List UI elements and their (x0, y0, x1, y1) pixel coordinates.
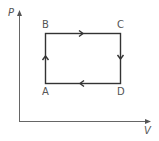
p-axis-label: P (8, 8, 14, 18)
axes (17, 10, 151, 124)
p-axis-arrowhead-icon (17, 10, 22, 16)
point-label-d: D (117, 87, 125, 97)
point-label-b: B (42, 20, 49, 30)
cycle (43, 31, 124, 87)
point-label-c: C (117, 20, 124, 30)
diagram-canvas (0, 0, 159, 141)
point-label-a: A (42, 87, 49, 97)
v-axis-arrowhead-icon (145, 119, 151, 124)
v-axis-label: V (144, 126, 151, 136)
cycle-rectangle (46, 34, 121, 84)
pv-diagram: P V B C A D (0, 0, 159, 141)
